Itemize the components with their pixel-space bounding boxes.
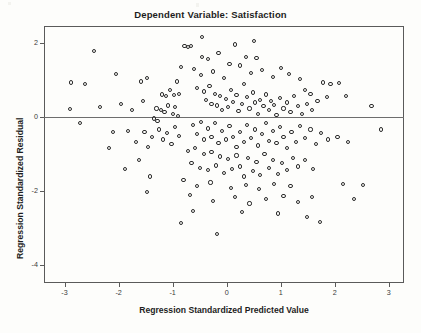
data-point — [209, 102, 213, 106]
data-point — [285, 100, 289, 104]
data-point — [177, 92, 181, 96]
data-point — [279, 66, 283, 70]
data-point — [296, 200, 300, 204]
data-point — [267, 139, 271, 143]
data-point — [379, 127, 383, 131]
data-point — [311, 167, 315, 171]
data-point — [69, 80, 73, 84]
data-point — [310, 195, 314, 199]
data-point — [251, 169, 255, 173]
data-point — [308, 127, 312, 131]
data-point — [195, 184, 199, 188]
data-point — [233, 195, 237, 199]
data-point — [211, 69, 215, 73]
data-point — [231, 100, 235, 104]
data-point — [68, 107, 72, 111]
data-point — [166, 103, 170, 107]
data-point — [325, 95, 329, 99]
data-point — [202, 137, 206, 141]
data-point — [226, 157, 230, 161]
data-point — [234, 145, 238, 149]
data-point — [209, 135, 213, 139]
data-point — [308, 92, 312, 96]
data-point — [238, 130, 242, 134]
data-point — [211, 199, 215, 203]
data-point — [224, 137, 228, 141]
data-point — [276, 172, 280, 176]
data-point — [261, 104, 265, 108]
data-point — [176, 114, 180, 118]
data-point — [314, 142, 318, 146]
data-point — [226, 105, 230, 109]
data-point — [222, 171, 226, 175]
data-point — [264, 197, 268, 201]
data-point — [164, 94, 168, 98]
data-point — [281, 106, 285, 110]
data-point — [310, 108, 314, 112]
data-point — [294, 140, 298, 144]
data-point — [173, 105, 177, 109]
data-point — [296, 164, 300, 168]
data-point — [318, 220, 322, 224]
data-point — [319, 131, 323, 135]
data-point — [192, 67, 196, 71]
data-point — [251, 90, 255, 94]
data-point — [278, 125, 282, 129]
x-tick-mark — [173, 283, 174, 287]
data-point — [249, 71, 253, 75]
data-point — [246, 156, 250, 160]
data-point — [220, 129, 224, 133]
data-point — [215, 103, 219, 107]
data-point — [300, 112, 304, 116]
data-point — [145, 76, 149, 80]
data-point — [148, 174, 152, 178]
data-point — [288, 110, 292, 114]
data-point — [195, 132, 199, 136]
data-point — [296, 104, 300, 108]
data-point — [272, 103, 276, 107]
data-point — [191, 123, 195, 127]
data-point — [227, 62, 231, 66]
data-point — [137, 158, 141, 162]
data-point — [271, 158, 275, 162]
data-point — [262, 152, 266, 156]
x-tick-label: 3 — [379, 288, 399, 297]
data-point — [209, 150, 213, 154]
data-point — [289, 130, 293, 134]
data-point — [165, 131, 169, 135]
data-point — [175, 79, 179, 83]
data-point — [216, 141, 220, 145]
data-point — [230, 167, 234, 171]
data-point — [260, 68, 264, 72]
data-point — [92, 49, 96, 53]
x-tick-mark — [119, 283, 120, 287]
data-point — [256, 143, 260, 147]
data-point — [267, 108, 271, 112]
y-tick-mark — [40, 191, 44, 192]
y-tick-mark — [40, 265, 44, 266]
data-point — [157, 127, 161, 131]
data-point — [285, 146, 289, 150]
data-point — [315, 99, 319, 103]
data-point — [169, 142, 173, 146]
data-point — [139, 79, 143, 83]
data-point — [242, 82, 246, 86]
data-point — [229, 88, 233, 92]
data-point — [206, 57, 210, 61]
data-point — [200, 55, 204, 59]
data-point — [280, 161, 284, 165]
y-tick-label: 2 — [22, 38, 38, 47]
data-point — [328, 82, 332, 86]
data-point — [254, 56, 258, 60]
data-point — [114, 72, 118, 76]
data-point — [242, 174, 246, 178]
x-tick-label: -2 — [109, 288, 129, 297]
data-point — [215, 232, 219, 236]
x-tick-mark — [65, 283, 66, 287]
data-point — [150, 135, 154, 139]
x-tick-mark — [281, 283, 282, 287]
data-point — [288, 184, 292, 188]
data-point — [145, 190, 149, 194]
data-point — [168, 88, 172, 92]
data-point — [240, 102, 244, 106]
